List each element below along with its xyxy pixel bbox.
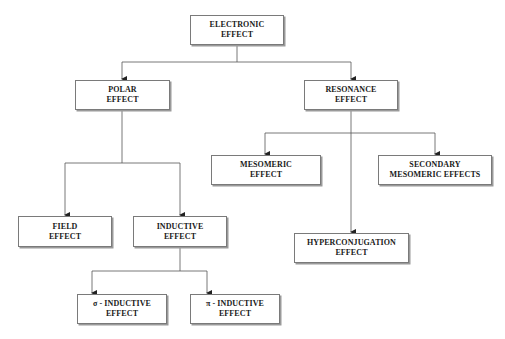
node-mesomeric-effect: MESOMERIC EFFECT — [211, 155, 321, 185]
node-label-line1: MESOMERIC — [240, 160, 292, 170]
node-label-line1: FIELD — [53, 222, 78, 232]
node-label-line1: INDUCTIVE — [157, 222, 204, 232]
node-label-line1: POLAR — [108, 85, 137, 95]
node-label-line2: EFFECT — [335, 248, 367, 258]
node-polar-effect: POLAR EFFECT — [75, 80, 170, 110]
node-label-line1: σ - INDUCTIVE — [93, 299, 151, 309]
node-label-line2: MESOMERIC EFFECTS — [390, 170, 481, 180]
effects-diagram: ELECTRONIC EFFECT POLAR EFFECT RESONANCE… — [0, 0, 505, 339]
node-label-line2: EFFECT — [250, 170, 282, 180]
node-inductive-effect: INDUCTIVE EFFECT — [133, 216, 227, 247]
node-label-line2: EFFECT — [106, 95, 138, 105]
node-label-line2: EFFECT — [219, 309, 251, 319]
node-label-line2: EFFECT — [49, 232, 81, 242]
node-label-line2: EFFECT — [106, 309, 138, 319]
node-field-effect: FIELD EFFECT — [18, 216, 112, 247]
node-label-line1: HYPERCONJUGATION — [307, 238, 396, 248]
node-label-line2: EFFECT — [335, 95, 367, 105]
node-pi-inductive-effect: π - INDUCTIVE EFFECT — [190, 294, 280, 324]
node-sigma-inductive-effect: σ - INDUCTIVE EFFECT — [77, 294, 167, 324]
node-secondary-mesomeric-effects: SECONDARY MESOMERIC EFFECTS — [378, 155, 492, 185]
node-label-line2: EFFECT — [164, 232, 196, 242]
node-hyperconjugation-effect: HYPERCONJUGATION EFFECT — [294, 233, 409, 263]
node-label-line1: ELECTRONIC — [210, 20, 265, 30]
node-label-line1: SECONDARY — [409, 160, 460, 170]
node-resonance-effect: RESONANCE EFFECT — [304, 80, 398, 110]
node-label-line2: EFFECT — [221, 30, 253, 40]
node-label-line1: π - INDUCTIVE — [206, 299, 264, 309]
node-electronic-effect: ELECTRONIC EFFECT — [190, 15, 284, 45]
node-label-line1: RESONANCE — [325, 85, 376, 95]
